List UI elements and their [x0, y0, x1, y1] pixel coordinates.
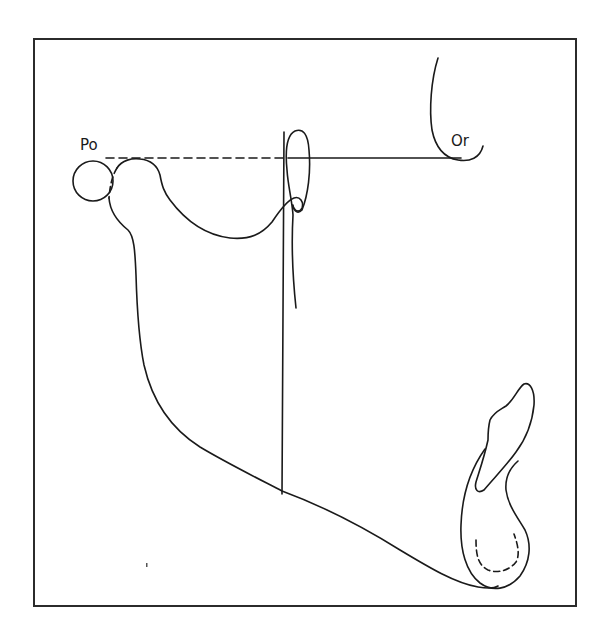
- cephalometric-diagram: Po Or: [0, 0, 605, 631]
- symphysis-inner-dashed: [476, 534, 518, 572]
- porion-circle: [73, 161, 113, 201]
- symphysis-outline: [461, 449, 529, 588]
- pterygomaxillary-fissure: [286, 130, 309, 308]
- porion-label: Po: [80, 136, 98, 154]
- condyle-and-sigmoid-notch: [117, 159, 303, 239]
- ramus-and-lower-border: [109, 198, 498, 588]
- orbitale-label: Or: [451, 132, 470, 150]
- vertical-reference-line: [282, 132, 284, 494]
- lower-incisor: [475, 384, 534, 492]
- speck-mark: [146, 563, 148, 567]
- diagram-frame: [34, 39, 576, 606]
